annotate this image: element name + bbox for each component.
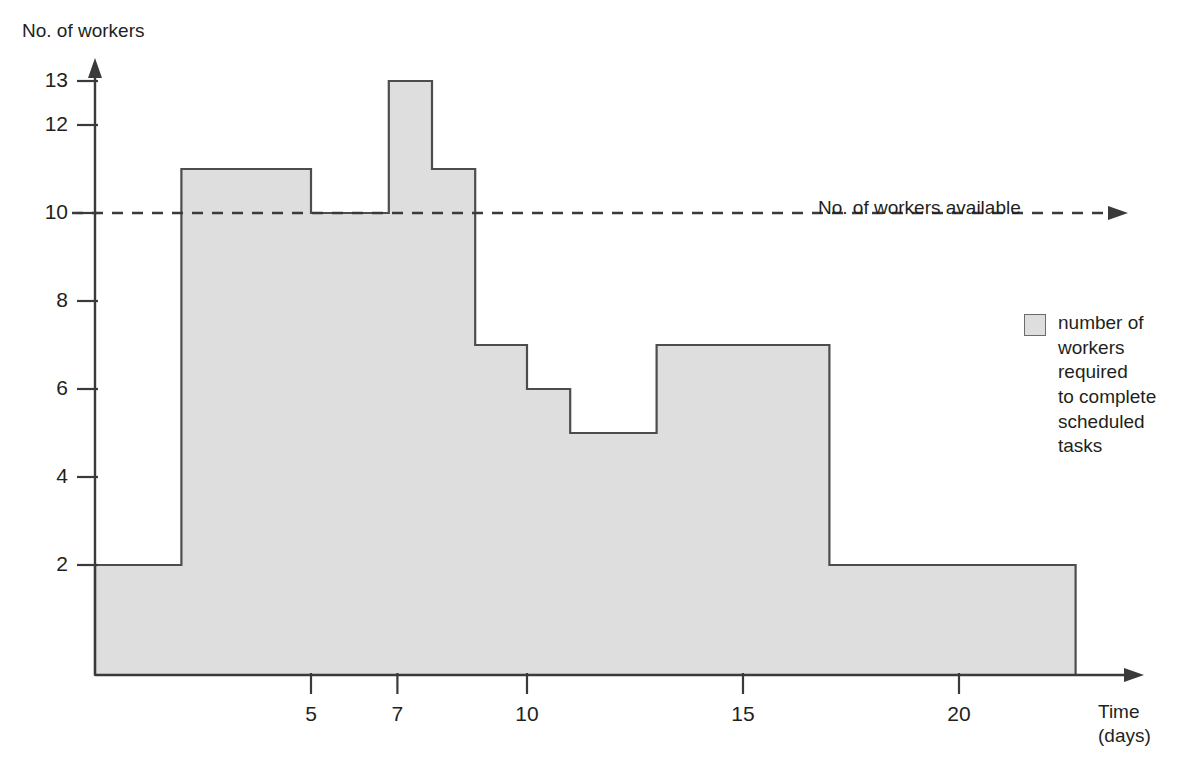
- resource-histogram-svg: [0, 0, 1181, 779]
- y-axis-arrowhead: [88, 58, 102, 78]
- x-tick-label-10: 10: [497, 701, 557, 728]
- y-tick-label-2: 2: [22, 551, 68, 578]
- y-tick-label-10: 10: [22, 199, 68, 226]
- y-tick-label-13: 13: [22, 67, 68, 94]
- x-tick-label-5: 5: [281, 701, 341, 728]
- y-tick-label-4: 4: [22, 463, 68, 490]
- x-tick-label-7: 7: [367, 701, 427, 728]
- x-axis-title: Time (days): [1098, 700, 1151, 749]
- y-axis-title: No. of workers: [22, 19, 144, 43]
- workers-required-area: [95, 81, 1076, 675]
- x-tick-label-20: 20: [929, 701, 989, 728]
- y-tick-label-6: 6: [22, 375, 68, 402]
- x-tick-label-15: 15: [713, 701, 773, 728]
- workers-available-annotation: No. of workers available: [818, 196, 1021, 220]
- x-axis-arrowhead: [1124, 668, 1144, 682]
- legend-label: number of workers required to complete s…: [1058, 311, 1178, 459]
- y-tick-label-12: 12: [22, 111, 68, 138]
- chart-root: No. of workers Time (days) No. of worker…: [0, 0, 1181, 779]
- legend-swatch-icon: [1024, 314, 1046, 336]
- y-tick-label-8: 8: [22, 287, 68, 314]
- workers-available-arrowhead: [1108, 206, 1128, 220]
